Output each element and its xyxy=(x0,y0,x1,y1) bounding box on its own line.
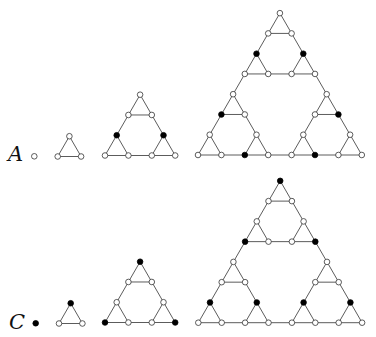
vertex-hollow xyxy=(336,152,342,158)
vertex-hollow xyxy=(312,112,318,118)
vertex-hollow xyxy=(242,71,248,77)
vertex-hollow xyxy=(265,31,271,37)
vertex-hollow xyxy=(313,279,319,285)
vertex-hollow xyxy=(347,132,353,138)
vertex-hollow xyxy=(313,320,319,326)
vertex-filled xyxy=(301,300,307,306)
vertex-hollow xyxy=(254,132,260,138)
vertex-hollow xyxy=(289,31,295,37)
vertex-hollow xyxy=(230,91,236,97)
vertex-hollow xyxy=(102,153,108,159)
vertex-hollow xyxy=(277,10,283,16)
vertex-hollow xyxy=(219,279,225,285)
vertex-hollow xyxy=(126,320,132,326)
vertex-hollow xyxy=(301,132,307,138)
vertex-filled xyxy=(161,132,167,138)
vertex-hollow xyxy=(149,279,155,285)
vertex-hollow xyxy=(289,152,295,158)
hanoi-graph-diagram: A C xyxy=(0,0,376,337)
vertex-hollow xyxy=(149,112,155,118)
vertex-hollow xyxy=(80,321,86,327)
vertex-hollow xyxy=(266,198,272,204)
vertex-hollow xyxy=(336,279,342,285)
vertex-filled xyxy=(33,321,39,327)
vertex-hollow xyxy=(56,321,62,327)
vertex-hollow xyxy=(219,152,225,158)
vertex-hollow xyxy=(266,239,272,245)
vertex-hollow xyxy=(242,112,248,118)
vertex-filled xyxy=(242,152,248,158)
vertex-hollow xyxy=(242,320,248,326)
vertex-hollow xyxy=(254,219,260,225)
hanoi-graph-level-0 xyxy=(33,321,39,327)
vertex-hollow xyxy=(161,299,167,305)
vertex-hollow xyxy=(196,320,202,326)
vertex-hollow xyxy=(289,71,295,77)
vertex-filled xyxy=(172,320,178,326)
vertex-hollow xyxy=(78,154,84,160)
vertex-filled xyxy=(254,51,260,57)
vertex-hollow xyxy=(207,132,213,138)
vertex-filled xyxy=(277,178,283,184)
row-label-c: C xyxy=(9,310,25,334)
vertex-hollow xyxy=(126,279,132,285)
vertex-hollow xyxy=(289,239,295,245)
vertex-hollow xyxy=(289,198,295,204)
vertex-filled xyxy=(348,300,354,306)
vertex-hollow xyxy=(324,259,330,265)
vertex-hollow xyxy=(336,320,342,326)
vertex-hollow xyxy=(126,112,132,118)
vertex-hollow xyxy=(172,153,178,159)
row-label-a: A xyxy=(6,142,23,166)
vertex-hollow xyxy=(266,320,272,326)
vertex-hollow xyxy=(149,320,155,326)
vertex-hollow xyxy=(149,153,155,159)
vertex-filled xyxy=(242,239,248,245)
vertex-filled xyxy=(336,112,342,118)
vertex-hollow xyxy=(67,133,73,139)
vertex-hollow xyxy=(126,153,132,159)
vertex-hollow xyxy=(359,152,365,158)
background xyxy=(0,0,376,337)
vertex-hollow xyxy=(289,320,295,326)
vertex-filled xyxy=(207,300,213,306)
vertex-hollow xyxy=(32,154,38,160)
vertex-filled xyxy=(301,51,307,57)
vertex-filled xyxy=(102,320,108,326)
vertex-filled xyxy=(137,259,143,265)
vertex-hollow xyxy=(231,259,237,265)
vertex-filled xyxy=(254,300,260,306)
vertex-hollow xyxy=(242,279,248,285)
vertex-hollow xyxy=(301,219,307,225)
vertex-hollow xyxy=(114,299,120,305)
vertex-hollow xyxy=(359,320,365,326)
vertex-filled xyxy=(312,152,318,158)
vertex-filled xyxy=(313,239,319,245)
vertex-hollow xyxy=(195,152,201,158)
vertex-filled xyxy=(219,112,225,118)
vertex-hollow xyxy=(219,320,225,326)
vertex-hollow xyxy=(324,91,330,97)
vertex-hollow xyxy=(265,71,271,77)
vertex-filled xyxy=(114,132,120,138)
vertex-hollow xyxy=(312,71,318,77)
vertex-hollow xyxy=(265,152,271,158)
vertex-hollow xyxy=(55,154,61,160)
vertex-filled xyxy=(68,300,74,306)
hanoi-graph-level-0 xyxy=(32,154,38,160)
vertex-hollow xyxy=(137,92,143,98)
